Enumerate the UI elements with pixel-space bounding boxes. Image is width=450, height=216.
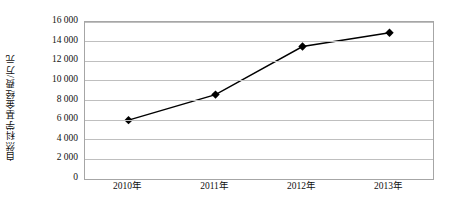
gridline [85,139,433,140]
x-axis-tick-label: 2010年 [113,182,142,192]
data-point-marker [211,90,219,98]
x-axis-tick-label: 2011年 [200,182,229,192]
y-axis-tick-label: 2 000 [57,154,78,164]
y-axis-tick-labels: 02 0004 0006 0008 00010 00012 00014 0001… [30,0,82,216]
y-axis-tick-label: 16 000 [52,16,78,26]
x-axis-tick-label: 2012年 [287,182,316,192]
series-line [129,33,390,120]
gridline [85,41,433,42]
gridline [85,22,433,23]
y-axis-tick-label: 0 [73,173,78,183]
y-axis-tick-label: 6 000 [57,114,78,124]
y-axis-tick-label: 4 000 [57,134,78,144]
x-axis-tick-label: 2013年 [374,182,403,192]
y-axis-title: 自然科学基金经费/万元 [0,0,22,216]
y-axis-tick-label: 8 000 [57,95,78,105]
y-axis-tick-label: 10 000 [52,75,78,85]
gridline [85,100,433,101]
plot-area [84,21,434,180]
gridline [85,80,433,81]
gridline [85,120,433,121]
gridline [85,159,433,160]
data-point-marker [385,29,393,37]
gridline [85,61,433,62]
x-axis-tick-labels: 2010年2011年2012年2013年 [84,182,434,202]
y-axis-tick-label: 14 000 [52,36,78,46]
y-axis-tick-label: 12 000 [52,56,78,66]
y-axis-title-text: 自然科学基金经费/万元 [4,54,18,161]
data-point-marker [298,42,306,50]
chart-figure: 自然科学基金经费/万元 02 0004 0006 0008 00010 0001… [0,0,450,216]
